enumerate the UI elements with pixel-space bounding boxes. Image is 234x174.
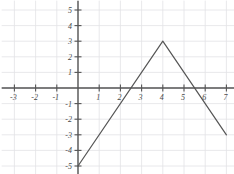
x-tick-label: -1 (52, 93, 59, 102)
y-tick-label: -5 (65, 162, 72, 171)
coordinate-plane: -3-2-11234567-5-4-3-2-112345 (0, 0, 234, 174)
y-tick-label: -1 (65, 100, 72, 109)
y-tick-label: 2 (68, 53, 72, 62)
x-tick-label: -2 (31, 93, 38, 102)
x-tick-label: 2 (117, 93, 121, 102)
graph-figure: -3-2-11234567-5-4-3-2-112345 (0, 0, 234, 174)
x-tick-label: 4 (160, 93, 164, 102)
y-tick-label: -2 (65, 115, 72, 124)
y-tick-label: 1 (68, 68, 72, 77)
x-tick-label: -3 (10, 93, 17, 102)
y-tick-label: 5 (68, 6, 72, 15)
axes (2, 1, 234, 174)
y-tick-label: 3 (67, 37, 72, 46)
y-tick-label: 4 (68, 22, 72, 31)
x-tick-label: 7 (223, 93, 228, 102)
y-tick-label: -3 (65, 131, 72, 140)
x-tick-label: 3 (138, 93, 143, 102)
y-tick-label: -4 (65, 146, 72, 155)
x-tick-label: 1 (96, 93, 100, 102)
x-tick-label: 5 (181, 93, 185, 102)
